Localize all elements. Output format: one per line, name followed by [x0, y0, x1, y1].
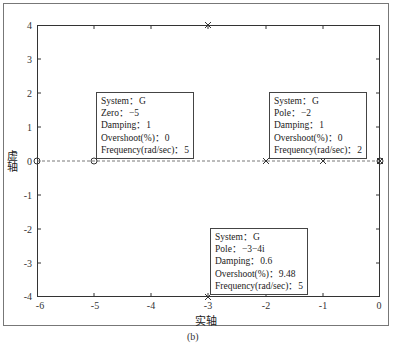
datatip-line: Zero：−5	[101, 107, 189, 119]
datatip-line: Damping：1	[274, 119, 362, 131]
xtick-label: -2	[262, 300, 270, 311]
datatip-pole-complex[interactable]: System：G Pole：−3−4i Damping：0.6 Overshoo…	[210, 228, 308, 295]
y-axis-title: 虚轴	[4, 150, 20, 172]
datatip-line: System：G	[274, 95, 362, 107]
xtick-label: -3	[204, 300, 212, 311]
datatip-line: Frequency(rad/sec)：2	[274, 144, 362, 156]
xtick-label: -1	[319, 300, 327, 311]
datatip-line: Frequency(rad/sec)：5	[101, 144, 189, 156]
datatip-line: Damping：1	[101, 119, 189, 131]
xtick-label: -5	[91, 300, 99, 311]
ytick-label: 3	[12, 54, 32, 65]
x-axis-title: 实轴	[195, 312, 217, 328]
plot-graphics	[0, 0, 393, 345]
ytick-label: -3	[12, 258, 32, 269]
figure-caption: (b)	[187, 331, 199, 342]
ytick-label: 1	[12, 122, 32, 133]
datatip-line: Pole：−3−4i	[215, 243, 303, 255]
ytick-label: -1	[12, 190, 32, 201]
datatip-line: Damping：0.6	[215, 255, 303, 267]
ytick-label: -2	[12, 224, 32, 235]
datatip-line: Overshoot(%)：0	[274, 132, 362, 144]
datatip-line: Overshoot(%)：0	[101, 132, 189, 144]
datatip-line: Frequency(rad/sec)：5	[215, 280, 303, 292]
ytick-label: -4	[12, 291, 32, 302]
xtick-label: 0	[377, 300, 382, 311]
xtick-label: -4	[147, 300, 155, 311]
datatip-zero[interactable]: System：G Zero：−5 Damping：1 Overshoot(%)：…	[96, 92, 194, 159]
ytick-label: 4	[12, 20, 32, 31]
datatip-line: System：G	[215, 231, 303, 243]
datatip-line: Overshoot(%)：9.48	[215, 268, 303, 280]
ytick-label: 2	[12, 88, 32, 99]
datatip-pole-real[interactable]: System：G Pole：−2 Damping：1 Overshoot(%)：…	[269, 92, 367, 159]
datatip-line: Pole：−2	[274, 107, 362, 119]
xtick-label: -6	[36, 300, 44, 311]
datatip-line: System：G	[101, 95, 189, 107]
